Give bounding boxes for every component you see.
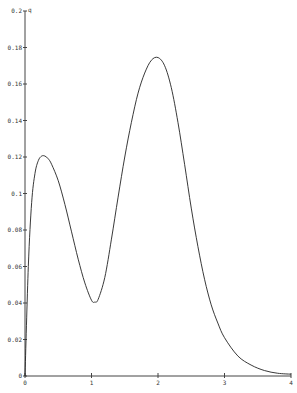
x-ticks: 01234 <box>23 373 293 386</box>
axes <box>25 11 291 376</box>
x-tick-label: 3 <box>223 379 227 386</box>
x-tick-label: 4 <box>289 379 293 386</box>
y-ticks: 00.020.040.060.080.10.120.140.160.180.2 <box>8 7 27 379</box>
y-tick-label: 0.2 <box>11 7 22 14</box>
x-tick-label: 2 <box>156 379 160 386</box>
y-tick-label: 0.1 <box>11 190 22 197</box>
y-tick-label: 0.18 <box>8 44 23 51</box>
y-tick-label: 0.14 <box>8 117 23 124</box>
line-chart: 00.020.040.060.080.10.120.140.160.180.2 … <box>0 0 297 393</box>
y-tick-label: 0.04 <box>8 299 23 306</box>
x-tick-label: 0 <box>23 379 27 386</box>
y-tick-label: 0.06 <box>8 263 23 270</box>
y-tick-label: 0.12 <box>8 153 23 160</box>
data-curve <box>25 57 291 376</box>
x-tick-label: 1 <box>90 379 94 386</box>
y-tick-label: 0 <box>18 372 22 379</box>
y-tick-label: 0.02 <box>8 336 23 343</box>
y-tick-label: 0.16 <box>8 80 23 87</box>
y-axis-label: q <box>28 6 32 14</box>
y-tick-label: 0.08 <box>8 226 23 233</box>
